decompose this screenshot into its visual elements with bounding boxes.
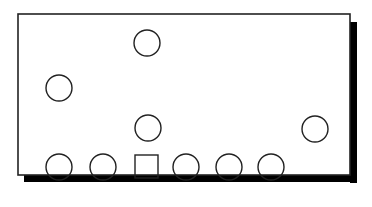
diagram-canvas: [0, 0, 372, 207]
diagram-frame: [18, 14, 350, 175]
frame-shadow-right: [350, 22, 357, 183]
